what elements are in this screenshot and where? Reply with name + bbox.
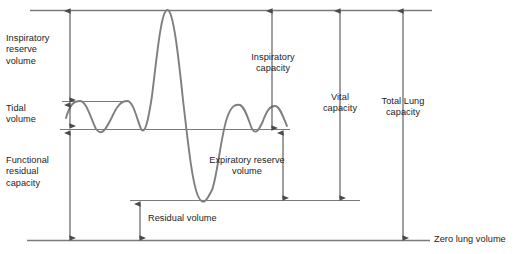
total-lung-capacity-label: Total Lung capacity [372, 96, 434, 119]
tidal-volume-label: Tidal volume [6, 103, 62, 126]
reference-levels [27, 11, 432, 241]
diagram-canvas [0, 0, 520, 254]
vital-capacity-label: Vital capacity [310, 92, 370, 115]
measure-arrows [70, 11, 403, 238]
functional-residual-capacity-label: Functional residual capacity [6, 155, 66, 189]
zero-lung-volume-label: Zero lung volume [434, 234, 520, 245]
residual-volume-label: Residual volume [148, 213, 244, 224]
inspiratory-capacity-label: Inspiratory capacity [242, 52, 304, 75]
expiratory-reserve-volume-label: Expiratory reserve volume [206, 155, 288, 178]
lung-volumes-diagram: Inspiratory reserve volume Tidal volume … [0, 0, 520, 254]
inspiratory-reserve-volume-label: Inspiratory reserve volume [6, 33, 66, 67]
